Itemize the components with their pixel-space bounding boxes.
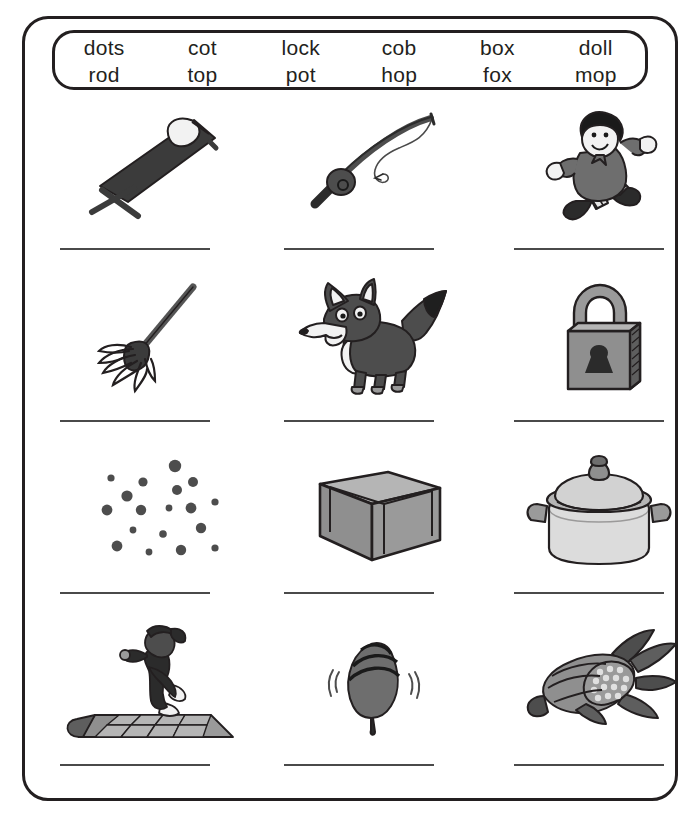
answer-line[interactable] xyxy=(514,248,664,250)
grid-cell xyxy=(500,616,698,788)
grid-cell xyxy=(500,100,698,272)
answer-line[interactable] xyxy=(284,592,434,594)
mop-icon xyxy=(52,272,250,407)
grid-row xyxy=(52,272,648,444)
answer-line[interactable] xyxy=(60,764,210,766)
fishing-rod-icon xyxy=(276,100,474,235)
answer-line[interactable] xyxy=(514,420,664,422)
word-bank-word: rod xyxy=(55,61,153,89)
corn-cob-icon xyxy=(500,616,698,751)
grid-cell xyxy=(500,272,698,444)
grid-cell xyxy=(52,272,250,444)
box-icon xyxy=(276,444,474,579)
dots-icon xyxy=(52,444,250,579)
word-bank-word: doll xyxy=(547,34,645,62)
word-bank-row-1: dots cot lock cob box doll xyxy=(55,34,645,62)
answer-line[interactable] xyxy=(284,420,434,422)
answer-line[interactable] xyxy=(284,248,434,250)
word-bank-word: pot xyxy=(252,61,350,89)
word-bank-word: hop xyxy=(350,61,448,89)
padlock-icon xyxy=(500,272,698,407)
fox-icon xyxy=(276,272,474,407)
answer-line[interactable] xyxy=(60,420,210,422)
grid-cell xyxy=(52,100,250,272)
word-bank-word: fox xyxy=(448,61,546,89)
grid-row xyxy=(52,100,648,272)
answer-line[interactable] xyxy=(60,592,210,594)
grid-cell xyxy=(276,616,474,788)
grid-cell xyxy=(500,444,698,616)
grid-cell xyxy=(276,272,474,444)
grid-cell xyxy=(276,444,474,616)
word-bank: dots cot lock cob box doll rod top pot h… xyxy=(52,30,648,90)
grid-cell xyxy=(52,444,250,616)
answer-line[interactable] xyxy=(60,248,210,250)
cooking-pot-icon xyxy=(500,444,698,579)
word-bank-word: cob xyxy=(350,34,448,62)
grid-cell xyxy=(52,616,250,788)
word-bank-word: lock xyxy=(252,34,350,62)
word-bank-word: mop xyxy=(547,61,645,89)
picture-grid xyxy=(52,100,648,790)
answer-line[interactable] xyxy=(514,592,664,594)
grid-cell xyxy=(276,100,474,272)
spinning-top-icon xyxy=(276,616,474,751)
answer-line[interactable] xyxy=(284,764,434,766)
cot-folding-bed-icon xyxy=(52,100,250,235)
grid-row xyxy=(52,616,648,788)
word-bank-word: box xyxy=(448,34,546,62)
word-bank-row-2: rod top pot hop fox mop xyxy=(55,61,645,89)
grid-row xyxy=(52,444,648,616)
word-bank-word: dots xyxy=(55,34,153,62)
word-bank-word: cot xyxy=(153,34,251,62)
answer-line[interactable] xyxy=(514,764,664,766)
doll-icon xyxy=(500,100,698,235)
worksheet-page: dots cot lock cob box doll rod top pot h… xyxy=(0,0,700,833)
hopscotch-hop-icon xyxy=(52,616,250,751)
word-bank-word: top xyxy=(153,61,251,89)
